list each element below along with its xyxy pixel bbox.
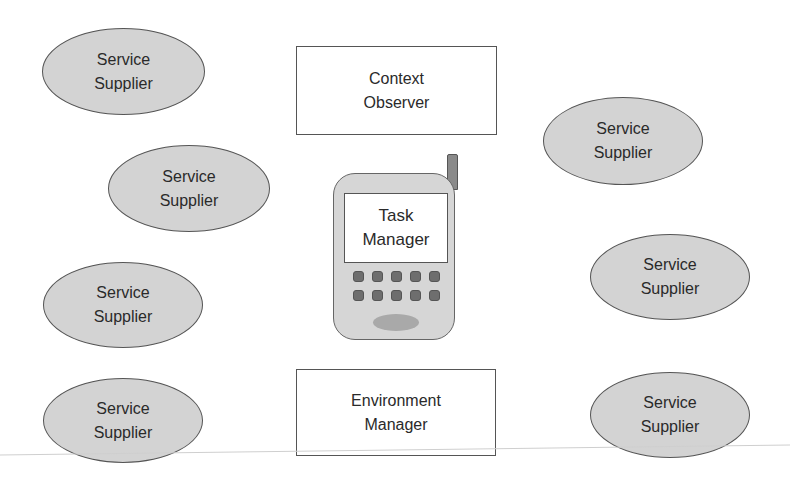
keypad-key-icon — [410, 290, 421, 301]
box-label-line1: Context — [369, 67, 424, 91]
node-label-line2: Supplier — [594, 141, 653, 165]
node-label-line1: Service — [596, 117, 649, 141]
service-supplier-node: Service Supplier — [43, 378, 203, 463]
box-label-line1: Environment — [351, 389, 441, 413]
service-supplier-node: Service Supplier — [43, 262, 203, 348]
keypad-key-icon — [372, 290, 383, 301]
node-label-line2: Supplier — [641, 415, 700, 439]
keypad-key-icon — [429, 290, 440, 301]
mobile-phone-icon: Task Manager — [333, 173, 455, 340]
keypad-key-icon — [410, 271, 421, 282]
node-label-line1: Service — [162, 165, 215, 189]
node-label-line1: Service — [643, 253, 696, 277]
node-label-line2: Supplier — [160, 189, 219, 213]
service-supplier-node: Service Supplier — [42, 28, 205, 115]
service-supplier-node: Service Supplier — [590, 234, 750, 320]
task-manager-screen: Task Manager — [344, 193, 448, 263]
screen-label-line2: Manager — [362, 228, 429, 252]
node-label-line1: Service — [96, 281, 149, 305]
node-label-line1: Service — [643, 391, 696, 415]
screen-label-line1: Task — [379, 204, 414, 228]
keypad-key-icon — [353, 290, 364, 301]
node-label-line2: Supplier — [94, 305, 153, 329]
node-label-line1: Service — [96, 397, 149, 421]
keypad-key-icon — [372, 271, 383, 282]
box-label-line2: Manager — [364, 413, 427, 437]
keypad-key-icon — [429, 271, 440, 282]
node-label-line2: Supplier — [94, 72, 153, 96]
box-label-line2: Observer — [364, 91, 430, 115]
keypad-key-icon — [391, 290, 402, 301]
node-label-line1: Service — [97, 48, 150, 72]
keypad-key-icon — [353, 271, 364, 282]
context-observer-box: Context Observer — [296, 46, 497, 135]
node-label-line2: Supplier — [641, 277, 700, 301]
diagram-canvas: Service Supplier Service Supplier Servic… — [0, 0, 790, 480]
service-supplier-node: Service Supplier — [108, 145, 270, 232]
node-label-line2: Supplier — [94, 421, 153, 445]
keypad-key-icon — [391, 271, 402, 282]
service-supplier-node: Service Supplier — [590, 372, 750, 458]
environment-manager-box: Environment Manager — [296, 369, 496, 456]
service-supplier-node: Service Supplier — [543, 97, 703, 185]
phone-speaker-icon — [373, 314, 419, 331]
